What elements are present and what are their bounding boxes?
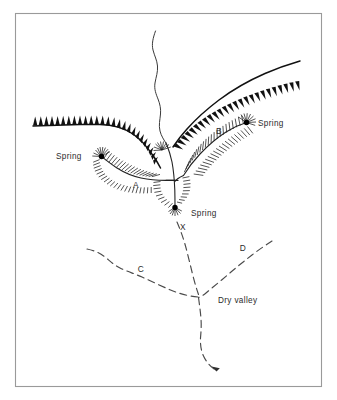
- label-valley-a: A: [133, 180, 139, 190]
- spring-dot-centre: [172, 205, 177, 210]
- label-valley-b: B: [216, 126, 222, 136]
- label-spring-left: Spring: [56, 152, 82, 161]
- label-spring-right: Spring: [258, 119, 284, 128]
- label-spring-centre: Spring: [191, 209, 217, 218]
- label-valley-d: D: [240, 243, 246, 253]
- label-dry-valley: Dry valley: [218, 296, 258, 305]
- label-valley-c: C: [138, 264, 144, 274]
- figure-root: Spring Spring Spring A B C D X Dry valle…: [0, 0, 337, 400]
- karst-dry-valley-diagram: Spring Spring Spring A B C D X Dry valle…: [0, 0, 337, 400]
- label-point-x: X: [180, 222, 186, 232]
- spring-dot-right: [244, 120, 249, 125]
- spring-dot-left: [99, 154, 104, 159]
